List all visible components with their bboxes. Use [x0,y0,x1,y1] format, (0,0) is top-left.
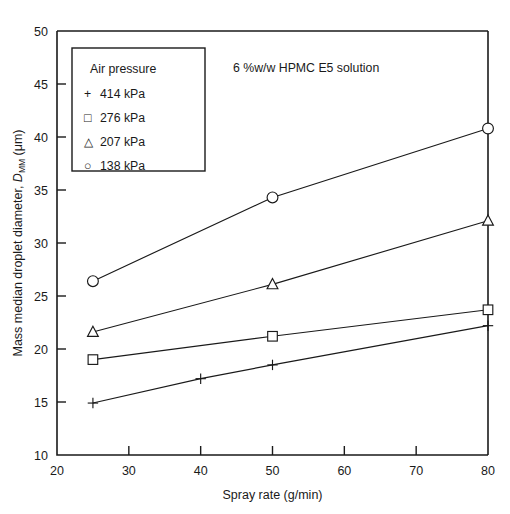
series-line-138-kPa [93,129,488,282]
chart-annotation: 6 %w/w HPMC E5 solution [233,61,379,75]
y-tick-label: 10 [34,449,48,463]
x-axis-title: Spray rate (g/min) [222,488,322,502]
y-tick-label: 15 [34,396,48,410]
series-line-276-kPa [93,310,488,360]
line-chart: 10152025303540455020304050607080Spray ra… [0,0,510,514]
legend-label: 414 kPa [100,87,145,101]
data-point-square[interactable] [268,331,278,341]
legend-entry[interactable]: □276 kPa [84,111,145,125]
x-tick-label: 80 [481,464,495,478]
y-axis-title: Mass median droplet diameter, DMM (μm) [11,129,27,356]
x-tick-label: 30 [122,464,136,478]
y-tick-label: 20 [34,343,48,357]
legend-entry[interactable]: △207 kPa [84,135,145,149]
y-tick-label: 35 [34,184,48,198]
x-tick-label: 20 [50,464,64,478]
data-point-square[interactable] [483,305,493,315]
series-line-414-kPa [93,326,488,403]
y-tick-label: 40 [34,131,48,145]
legend-marker-icon: △ [84,135,94,149]
x-tick-label: 60 [337,464,351,478]
y-tick-label: 30 [34,237,48,251]
chart-figure: 10152025303540455020304050607080Spray ra… [0,0,510,514]
legend-entry[interactable]: +414 kPa [84,87,145,101]
data-point-circle[interactable] [483,123,494,134]
data-point-circle[interactable] [88,276,99,287]
y-tick-label: 50 [34,25,48,39]
y-tick-label: 25 [34,290,48,304]
x-tick-label: 70 [409,464,423,478]
legend-marker-icon: + [84,87,91,101]
series-line-207-kPa [93,221,488,332]
y-tick-label: 45 [34,78,48,92]
legend-marker-icon: □ [84,111,92,125]
x-tick-label: 50 [266,464,280,478]
legend-label: 207 kPa [100,135,145,149]
legend-title: Air pressure [90,62,156,76]
legend-label: 276 kPa [100,111,145,125]
data-point-triangle[interactable] [483,215,494,225]
data-point-square[interactable] [88,355,98,365]
legend-marker-icon: ○ [84,159,91,173]
legend-label: 138 kPa [100,159,145,173]
x-tick-label: 40 [194,464,208,478]
data-point-circle[interactable] [267,192,278,203]
